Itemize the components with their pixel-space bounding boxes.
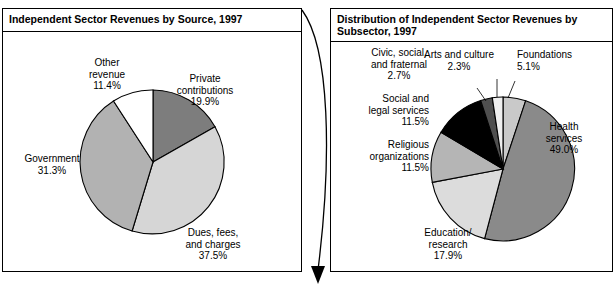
label-government: Government 31.3% bbox=[9, 153, 95, 176]
label-other-revenue: Other revenue 11.4% bbox=[65, 57, 149, 92]
label-dues-fees-charges: Dues, fees, and charges 37.5% bbox=[161, 227, 265, 262]
label-private-contributions: Private contributions 19.9% bbox=[159, 73, 251, 108]
label-religious-organizations: Religious organizations 11.5% bbox=[327, 139, 429, 174]
right-pie-chart: Arts and culture 2.3% Foundations 5.1% C… bbox=[331, 9, 612, 271]
left-chart-panel: Independent Sector Revenues by Source, 1… bbox=[2, 8, 302, 272]
label-health-services: Health services 49.0% bbox=[521, 121, 607, 156]
left-pie-chart: Other revenue 11.4% Private contribution… bbox=[3, 9, 301, 271]
label-civic-social-fraternal: Civic, social, and fraternal 2.7% bbox=[353, 47, 445, 82]
right-chart-panel: Distribution of Independent Sector Reven… bbox=[330, 8, 613, 272]
label-social-legal-services: Social and legal services 11.5% bbox=[327, 93, 429, 128]
leader-foundations bbox=[508, 81, 515, 98]
label-foundations: Foundations 5.1% bbox=[517, 49, 609, 72]
leader-civic-social-fraternal bbox=[477, 88, 486, 101]
label-education-research: Education/ research 17.9% bbox=[405, 227, 491, 262]
